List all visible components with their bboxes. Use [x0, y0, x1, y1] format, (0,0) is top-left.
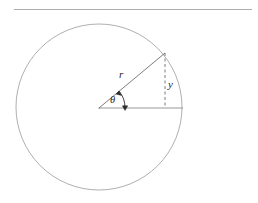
- label-angle-theta: θ: [110, 95, 115, 106]
- center-vertex-point: [98, 107, 99, 108]
- figure-root: r y θ: [0, 0, 258, 203]
- diagram-canvas: [0, 0, 258, 203]
- main-circle: [16, 24, 182, 190]
- label-opposite-y: y: [168, 79, 173, 90]
- angled-radius-line: [99, 53, 165, 108]
- label-radius-r: r: [119, 69, 123, 80]
